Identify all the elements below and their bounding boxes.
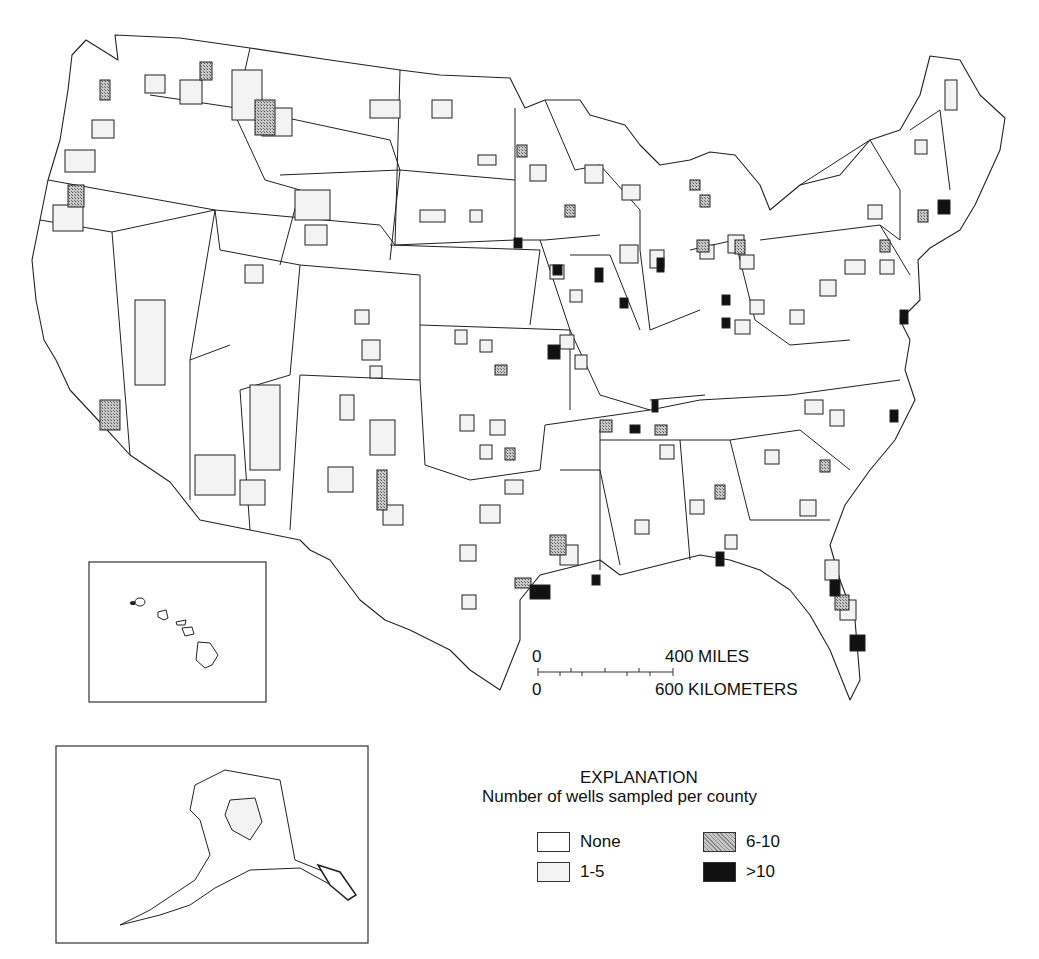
us-wells-map	[0, 0, 1039, 959]
legend-item-over-10: >10	[703, 862, 775, 882]
legend-label-over-10: >10	[746, 862, 775, 882]
legend-item-6-10: 6-10	[703, 832, 780, 852]
legend-swatch-none	[537, 832, 570, 852]
legend-swatch-over-10	[703, 862, 736, 882]
alaska-inset	[56, 746, 368, 943]
legend-swatch-1-5	[537, 862, 570, 882]
legend-swatch-6-10	[703, 832, 736, 852]
legend-label-1-5: 1-5	[580, 862, 605, 882]
legend-label-none: None	[580, 832, 621, 852]
scale-miles-label: 400 MILES	[665, 647, 749, 667]
legend-heading: EXPLANATION	[580, 768, 698, 788]
hawaii-inset	[89, 562, 266, 702]
scale-bar	[538, 668, 673, 676]
legend-item-1-5: 1-5	[537, 862, 605, 882]
scale-km-label: 600 KILOMETERS	[655, 680, 798, 700]
scale-miles-zero: 0	[532, 647, 541, 667]
legend-label-6-10: 6-10	[746, 832, 780, 852]
scale-km-zero: 0	[532, 680, 541, 700]
legend-subtitle: Number of wells sampled per county	[482, 787, 757, 807]
legend-item-none: None	[537, 832, 621, 852]
